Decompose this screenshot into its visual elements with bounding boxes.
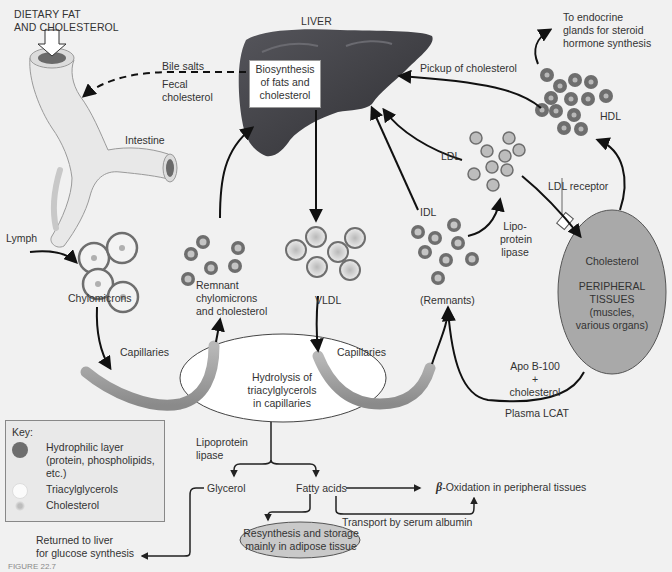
liver-label: LIVER: [301, 15, 332, 28]
dietary-fat-label: DIETARY FATAND CHOLESTEROL: [14, 8, 119, 34]
cholesterol-swatch-icon: [15, 501, 25, 511]
pickup-cholesterol-label: Pickup of cholesterol: [420, 62, 517, 75]
ldl-receptor-shape: [557, 212, 574, 229]
apo-b100-label: Apo B-100+cholesterol: [500, 360, 570, 399]
remnants-label: (Remnants): [420, 294, 475, 307]
figure-caption: FIGURE 22.7: [8, 560, 56, 572]
tissue-cholesterol-label: Cholesterol: [568, 255, 656, 268]
resynthesis-label: Resynthesis and storagemainly in adipose…: [242, 527, 360, 553]
hydrophilic-swatch-icon: [12, 442, 28, 458]
endocrine-label: To endocrineglands for steroidhormone sy…: [563, 11, 651, 50]
lipoprotein-lipase-right-label: Lipo-proteinlipase: [500, 220, 530, 259]
capillaries-right-label: Capillaries: [337, 346, 386, 359]
intestine-shape: [30, 48, 177, 247]
ldl-receptor-label: LDL receptor: [548, 180, 608, 193]
key-item-cholesterol: Cholesterol: [46, 499, 99, 512]
peripheral-tissues-label: PERIPHERALTISSUES(muscles,various organs…: [562, 280, 662, 332]
vldl-particles: [286, 227, 365, 280]
vldl-label: VLDL: [315, 294, 341, 307]
idl-label: IDL: [420, 206, 436, 219]
chylomicrons-label: Chylomicrons: [68, 292, 132, 305]
glycerol-label: Glycerol: [207, 482, 246, 495]
ldl-label: LDL: [441, 150, 460, 163]
transport-albumin-label: Transport by serum albumin: [342, 516, 472, 529]
hdl-label: HDL: [600, 110, 621, 123]
hydrolysis-label: Hydrolysis oftriacylglycerolsin capillar…: [232, 371, 332, 410]
key-item-triacylglycerols: Triacylglycerols: [46, 483, 118, 496]
capillaries-left-label: Capillaries: [120, 346, 169, 359]
lipoprotein-lipase-bottom-label: Lipoproteinlipase: [196, 436, 248, 462]
beta-oxidation-label: β-Oxidation in peripheral tissues: [436, 481, 586, 494]
idl-particles: [411, 218, 479, 285]
bile-salts-label: Bile salts: [162, 60, 204, 73]
plasma-lcat-label: Plasma LCAT: [505, 407, 569, 420]
returned-to-liver-label: Returned to liverfor glucose synthesis: [36, 534, 134, 560]
diagram-canvas: DIETARY FATAND CHOLESTEROL LIVER Biosynt…: [0, 0, 672, 572]
fatty-acids-label: Fatty acids: [296, 482, 347, 495]
legend-key: Key: Hydrophilic layer(protein, phosphol…: [5, 420, 165, 522]
liver-biosynthesis-box: Biosynthesisof fats andcholesterol: [249, 60, 321, 108]
intestine-label: Intestine: [125, 134, 165, 147]
lymph-label: Lymph: [6, 232, 37, 245]
key-title: Key:: [12, 426, 33, 439]
fecal-cholesterol-label: Fecalcholesterol: [162, 78, 213, 104]
hdl-particles: [535, 68, 613, 136]
remnant-chylomicrons-label: Remnantchylomicronsand cholesterol: [196, 279, 267, 318]
triacylglycerol-swatch-icon: [12, 483, 28, 499]
ldl-particles: [468, 132, 525, 191]
key-item-hydrophilic: Hydrophilic layer(protein, phospholipids…: [46, 441, 155, 480]
